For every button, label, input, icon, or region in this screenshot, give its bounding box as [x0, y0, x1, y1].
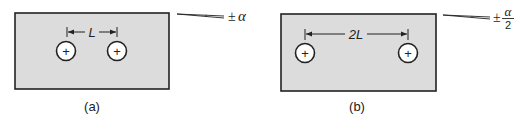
plus-icon: + [301, 46, 309, 61]
angle-tolerance-wedge-a: ± α [177, 8, 247, 24]
plus-icon: + [404, 46, 412, 61]
plus-minus-symbol: ± [228, 9, 236, 24]
hole-b-left: + [296, 44, 315, 63]
hole-a-left: + [57, 42, 76, 61]
hole-a-right: + [108, 42, 127, 61]
fraction-denominator: 2 [505, 19, 511, 31]
panel-b: 2L + + ± α 2 (b) [281, 4, 514, 114]
plus-icon: + [113, 44, 121, 59]
figure-canvas: L + + ± α (a) 2L + [0, 0, 526, 121]
plus-minus-symbol: ± [493, 10, 501, 25]
alpha-symbol: α [238, 8, 247, 24]
plus-icon: + [62, 44, 70, 59]
dimension-label-b: 2L [348, 27, 363, 42]
caption-a: (a) [84, 99, 100, 114]
alpha-symbol: α [505, 4, 513, 19]
angle-tolerance-wedge-b: ± α 2 [443, 4, 514, 31]
dimension-label-a: L [88, 25, 95, 40]
panel-a: L + + ± α (a) [15, 8, 247, 114]
caption-b: (b) [349, 99, 365, 114]
hole-b-right: + [399, 44, 418, 63]
